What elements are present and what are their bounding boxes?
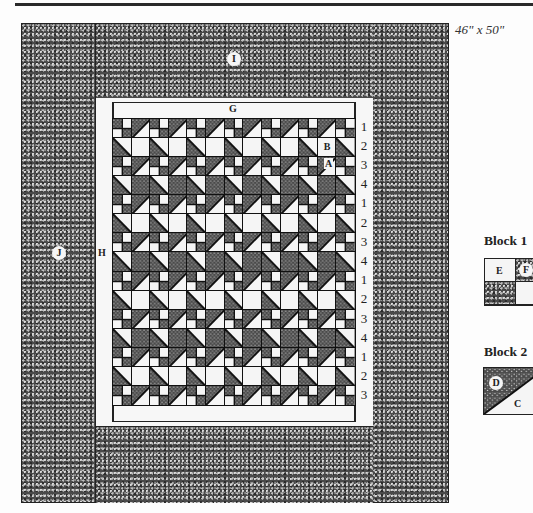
half-square-triangle-cell [169, 119, 188, 138]
outer-border-bottom-i [96, 426, 373, 503]
block2-diagram: D C [483, 367, 533, 415]
dark-square-cell [318, 252, 337, 271]
half-square-triangle-cell [150, 367, 169, 386]
dark-square-cell [169, 252, 188, 271]
four-patch-cell [150, 386, 169, 405]
four-patch-cell [299, 310, 318, 329]
half-square-triangle-cell [113, 291, 132, 310]
header-rule [15, 3, 533, 6]
half-square-triangle-cell [187, 367, 206, 386]
half-square-triangle-cell [318, 195, 337, 214]
half-square-triangle-cell [187, 138, 206, 157]
dark-square-cell [243, 176, 262, 195]
four-patch-cell [336, 195, 355, 214]
half-square-triangle-cell [169, 157, 188, 176]
four-patch-cell [150, 272, 169, 291]
light-square-cell [169, 367, 188, 386]
light-square-cell [132, 138, 151, 157]
label-j: J [52, 246, 66, 260]
half-square-triangle-cell [281, 195, 300, 214]
four-patch-cell [336, 386, 355, 405]
label-h: H [98, 247, 106, 258]
half-square-triangle-cell [336, 367, 355, 386]
light-square-cell [169, 291, 188, 310]
half-square-triangle-cell [132, 386, 151, 405]
light-square-cell [206, 138, 225, 157]
row-number: 1 [357, 271, 371, 290]
half-square-triangle-cell [262, 252, 281, 271]
light-square-cell [243, 138, 262, 157]
light-square-cell [318, 367, 337, 386]
label-b: B [320, 140, 334, 154]
half-square-triangle-cell [187, 252, 206, 271]
light-square-cell [132, 291, 151, 310]
four-patch-cell [262, 348, 281, 367]
four-patch-cell [225, 348, 244, 367]
outer-border-left-j [22, 24, 96, 502]
half-square-triangle-cell [318, 272, 337, 291]
block1-piece-f: F [516, 259, 533, 282]
half-square-triangle-cell [262, 214, 281, 233]
four-patch-cell [336, 233, 355, 252]
light-square-cell [243, 367, 262, 386]
quilt-diagram: I J H G B A [21, 23, 449, 503]
half-square-triangle-cell [206, 348, 225, 367]
half-square-triangle-cell [262, 367, 281, 386]
dark-square-cell [206, 252, 225, 271]
half-square-triangle-cell [169, 272, 188, 291]
half-square-triangle-cell [262, 329, 281, 348]
half-square-triangle-cell [169, 348, 188, 367]
light-square-cell [169, 138, 188, 157]
row-number: 2 [357, 367, 371, 386]
light-square-cell [169, 214, 188, 233]
half-square-triangle-cell [113, 329, 132, 348]
row-number: 3 [357, 309, 371, 328]
half-square-triangle-cell [281, 310, 300, 329]
four-patch-cell [113, 348, 132, 367]
block1-diagram: E F [484, 258, 533, 306]
four-patch-cell [336, 119, 355, 138]
half-square-triangle-cell [299, 214, 318, 233]
light-square-cell [318, 214, 337, 233]
half-square-triangle-cell [150, 214, 169, 233]
half-square-triangle-cell [206, 195, 225, 214]
light-square-cell [281, 367, 300, 386]
label-c: C [514, 398, 521, 409]
four-patch-cell [262, 119, 281, 138]
half-square-triangle-cell [336, 176, 355, 195]
half-square-triangle-cell [113, 367, 132, 386]
inner-border-bottom-g [112, 406, 356, 422]
half-square-triangle-cell [262, 291, 281, 310]
four-patch-cell [150, 348, 169, 367]
half-square-triangle-cell [132, 310, 151, 329]
four-patch-cell [262, 310, 281, 329]
four-patch-cell [150, 157, 169, 176]
half-square-triangle-cell [169, 195, 188, 214]
row-number: 2 [357, 290, 371, 309]
four-patch-cell [150, 195, 169, 214]
half-square-triangle-cell [318, 348, 337, 367]
half-square-triangle-cell [113, 214, 132, 233]
four-patch-cell [299, 348, 318, 367]
half-square-triangle-cell [132, 233, 151, 252]
half-square-triangle-cell [225, 138, 244, 157]
dark-square-cell [169, 329, 188, 348]
row-number: 2 [357, 136, 371, 155]
four-patch-cell [225, 310, 244, 329]
light-square-cell [281, 291, 300, 310]
row-number: 3 [357, 386, 371, 405]
dark-square-cell [132, 329, 151, 348]
half-square-triangle-cell [262, 176, 281, 195]
half-square-triangle-cell [150, 291, 169, 310]
four-patch-cell [299, 119, 318, 138]
half-square-triangle-cell [281, 386, 300, 405]
half-square-triangle-cell [299, 329, 318, 348]
half-square-triangle-cell [336, 291, 355, 310]
four-patch-cell [225, 157, 244, 176]
four-patch-cell [225, 195, 244, 214]
four-patch-cell [187, 233, 206, 252]
light-square-cell [132, 367, 151, 386]
four-patch-cell [113, 233, 132, 252]
half-square-triangle-cell [336, 214, 355, 233]
light-square-cell [281, 214, 300, 233]
